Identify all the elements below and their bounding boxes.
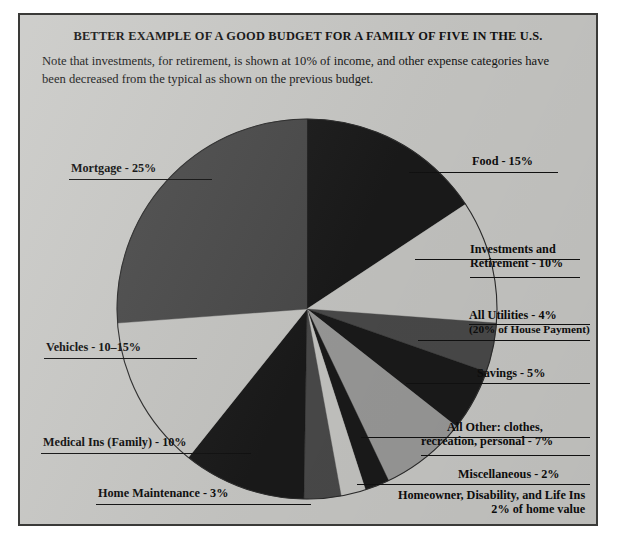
callout-food-label: Food - 15% — [472, 154, 533, 168]
callout-investments-leader — [415, 259, 580, 260]
callout-home-maintenance-label: Home Maintenance - 3% — [98, 486, 228, 500]
callout-insurance-line1: Homeowner, Disability, and Life Ins — [398, 488, 585, 502]
callout-medical-label: Medical Ins (Family) - 10% — [43, 435, 187, 449]
callout-mortgage-leader — [69, 179, 212, 180]
callout-vehicles-leader — [44, 358, 197, 359]
callout-home-maintenance-leader — [96, 504, 311, 505]
callout-miscellaneous-leader — [357, 484, 590, 485]
screenshot-root: BETTER EXAMPLE OF A GOOD BUDGET FOR A FA… — [0, 0, 618, 541]
callout-investments-line1: Investments and — [470, 242, 556, 256]
callout-utilities-leader2 — [418, 340, 590, 341]
callout-medical-leader — [41, 453, 251, 454]
callout-utilities-leader — [469, 324, 590, 325]
callout-utilities-line1: All Utilities - 4% — [469, 308, 557, 322]
budget-chart-panel: BETTER EXAMPLE OF A GOOD BUDGET FOR A FA… — [18, 13, 598, 526]
pie-chart-area: Food - 15% Investments and Retirement - … — [20, 15, 596, 524]
callout-food-leader — [409, 172, 558, 173]
callout-all-other-label: All Other: clothes, recreation, personal… — [447, 420, 553, 448]
callout-all-other-leader — [361, 437, 590, 438]
callout-savings-label: Savings - 5% — [477, 366, 545, 380]
callout-insurance-line2: 2% of home value — [398, 502, 585, 516]
callout-utilities-label: All Utilities - 4% (20% of House Payment… — [469, 308, 590, 336]
callout-investments-label: Investments and Retirement - 10% — [470, 242, 563, 270]
callout-mortgage-label: Mortgage - 25% — [71, 161, 156, 175]
callout-all-other-underline — [421, 455, 590, 456]
callout-insurance-label: Homeowner, Disability, and Life Ins 2% o… — [398, 488, 585, 516]
callout-vehicles-label: Vehicles - 10–15% — [46, 340, 141, 354]
pie-slice — [117, 119, 307, 323]
callout-miscellaneous-label: Miscellaneous - 2% — [458, 467, 560, 481]
callout-investments-underline — [470, 277, 580, 278]
callout-all-other-line1: All Other: clothes, — [447, 420, 543, 434]
callout-savings-leader — [406, 383, 590, 384]
